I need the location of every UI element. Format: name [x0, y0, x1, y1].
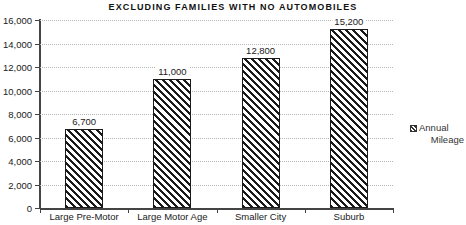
y-axis-label: 10,000: [3, 85, 32, 96]
y-axis-label: 4,000: [8, 156, 32, 167]
bar-chart: EXCLUDING FAMILIES WITH NO AUTOMOBILES 0…: [0, 0, 466, 225]
y-axis-tick: [35, 44, 40, 45]
chart-title: EXCLUDING FAMILIES WITH NO AUTOMOBILES: [0, 2, 466, 12]
x-axis-category-label: Large Pre-Motor: [50, 211, 119, 222]
y-axis-label: 16,000: [3, 15, 32, 26]
bar-value-label: 15,200: [332, 16, 365, 27]
y-axis-label: 14,000: [3, 38, 32, 49]
x-axis-category-label: Smaller City: [235, 211, 286, 222]
y-axis-tick: [35, 114, 40, 115]
bar-value-label: 12,800: [244, 45, 277, 56]
y-axis-label: 6,000: [8, 132, 32, 143]
y-axis-label: 0: [27, 203, 32, 214]
legend-item-annual-mileage: Annual: [410, 122, 464, 134]
plot-area: 02,0004,0006,0008,00010,00012,00014,0001…: [40, 20, 393, 208]
bar-value-label: 11,000: [156, 66, 188, 77]
y-axis-tick: [35, 138, 40, 139]
bar[interactable]: 12,800: [242, 58, 280, 208]
x-axis-category-label: Suburb: [334, 211, 365, 222]
x-axis-tick: [393, 208, 394, 213]
y-axis-tick: [35, 185, 40, 186]
bar[interactable]: 6,700: [65, 129, 103, 208]
y-axis-tick: [35, 91, 40, 92]
x-axis-tick: [40, 208, 41, 213]
y-axis-tick: [35, 161, 40, 162]
bar[interactable]: 11,000: [153, 79, 191, 208]
x-axis-tick: [128, 208, 129, 213]
chart-legend: Annual Mileage: [410, 122, 464, 146]
legend-label-line1: Annual: [419, 122, 449, 134]
bar-value-label: 6,700: [70, 116, 98, 127]
y-axis-label: 12,000: [3, 62, 32, 73]
hatched-swatch-icon: [410, 125, 417, 132]
y-axis-tick: [35, 20, 40, 21]
legend-label-line2: Mileage: [410, 134, 464, 146]
y-axis-label: 8,000: [8, 109, 32, 120]
x-axis-tick: [217, 208, 218, 213]
bar[interactable]: 15,200: [330, 29, 368, 208]
y-axis-tick: [35, 67, 40, 68]
y-axis-label: 2,000: [8, 179, 32, 190]
x-axis-tick: [305, 208, 306, 213]
x-axis-category-label: Large Motor Age: [137, 211, 207, 222]
